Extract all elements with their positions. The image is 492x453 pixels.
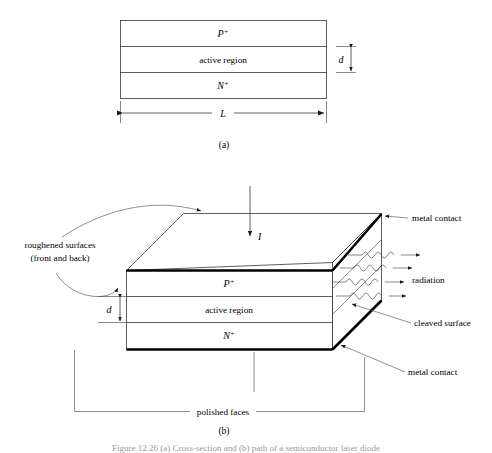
part-b-active-region-label: active region [205,305,253,315]
current-label: I [257,231,262,242]
part-a-caption: (a) [219,140,230,151]
part-a-length-dimension: L [121,101,327,123]
metal-contact-top-callout: metal contact [385,213,462,223]
polished-faces-label: polished faces [197,407,250,417]
part-b-group: P+ active region N+ I d roughened surfac… [24,186,470,437]
figure-caption-clip: Figure 12.26 (a) Cross-section and (b) p… [0,444,492,453]
laser-diode-figure: P+ active region N+ d L (a) [0,0,492,453]
polished-faces-callout: polished faces [75,350,365,417]
roughened-surfaces-label-line2: (front and back) [30,253,89,263]
figure-root: P+ active region N+ d L (a) [0,0,492,453]
metal-contact-bottom-label: metal contact [408,367,458,377]
part-a-d-label: d [339,54,345,65]
part-b-d-label: d [107,304,113,315]
part-b-thickness-dimension: d [98,297,127,323]
cleaved-surface-label: cleaved surface [414,318,471,328]
part-a-active-region-label: active region [199,55,247,65]
part-a-L-label: L [219,108,226,119]
part-a-thickness-dimension: d [336,47,356,73]
roughened-surfaces-label-line1: roughened surfaces [24,240,96,250]
part-b-caption: (b) [218,426,229,437]
metal-contact-top-label: metal contact [412,213,462,223]
radiation-label: radiation [412,275,445,285]
figure-caption: Figure 12.26 (a) Cross-section and (b) p… [0,444,492,453]
metal-contact-bottom-callout: metal contact [341,345,458,377]
part-a-group: P+ active region N+ d L (a) [121,21,357,152]
